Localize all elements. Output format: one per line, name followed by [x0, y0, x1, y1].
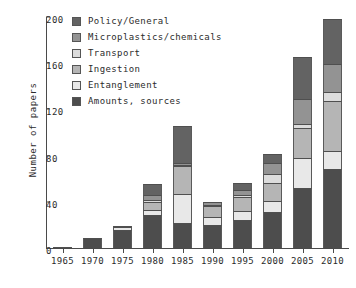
- bar-segment[interactable]: [173, 166, 192, 194]
- legend-item[interactable]: Ingestion: [72, 61, 222, 77]
- bar-segment[interactable]: [83, 238, 102, 248]
- bar-segment[interactable]: [233, 183, 252, 190]
- bar-segment[interactable]: [233, 211, 252, 220]
- bar-segment[interactable]: [203, 206, 222, 216]
- x-axis-tick-mark: [243, 249, 244, 253]
- bar-segment[interactable]: [263, 201, 282, 213]
- legend-item-label: Microplastics/chemicals: [88, 32, 222, 42]
- x-axis-tick-mark: [183, 249, 184, 253]
- bar-segment[interactable]: [203, 205, 222, 206]
- bar-segment[interactable]: [293, 99, 312, 124]
- bar-2010[interactable]: [323, 17, 342, 248]
- legend-item-label: Entanglement: [88, 80, 158, 90]
- bar-segment[interactable]: [143, 184, 162, 194]
- x-axis-tick-mark: [63, 249, 64, 253]
- bar-segment[interactable]: [233, 195, 252, 197]
- bar-segment[interactable]: [293, 158, 312, 188]
- x-axis-tick-mark: [303, 249, 304, 253]
- legend-swatch-icon: [72, 49, 81, 58]
- legend-item[interactable]: Policy/General: [72, 13, 222, 29]
- legend-item-label: Ingestion: [88, 64, 140, 74]
- legend-item-label: Transport: [88, 48, 140, 58]
- x-axis-tick-label: 1995: [231, 256, 254, 266]
- y-axis-title: Number of papers: [28, 50, 38, 210]
- x-axis-tick-mark: [213, 249, 214, 253]
- bar-1995[interactable]: [233, 17, 252, 248]
- x-axis-tick-label: 2005: [291, 256, 314, 266]
- bar-segment[interactable]: [323, 19, 342, 64]
- bar-segment[interactable]: [173, 126, 192, 163]
- bar-segment[interactable]: [173, 165, 192, 166]
- bar-segment[interactable]: [293, 128, 312, 158]
- bar-segment[interactable]: [113, 226, 132, 227]
- bar-segment[interactable]: [173, 163, 192, 165]
- bar-segment[interactable]: [293, 124, 312, 127]
- legend-item[interactable]: Amounts, sources: [72, 93, 222, 109]
- x-axis-tick-label: 1975: [111, 256, 134, 266]
- bar-segment[interactable]: [293, 57, 312, 99]
- bar-segment[interactable]: [263, 174, 282, 183]
- bar-segment[interactable]: [143, 195, 162, 200]
- legend-item[interactable]: Entanglement: [72, 77, 222, 93]
- bar-1965[interactable]: [53, 17, 72, 248]
- x-axis-tick-label: 2010: [321, 256, 344, 266]
- legend-item[interactable]: Microplastics/chemicals: [72, 29, 222, 45]
- x-axis-tick-label: 1985: [171, 256, 194, 266]
- x-axis-tick-mark: [153, 249, 154, 253]
- legend-swatch-icon: [72, 81, 81, 90]
- bar-segment[interactable]: [323, 101, 342, 151]
- bar-segment[interactable]: [263, 163, 282, 175]
- x-axis-tick-mark: [333, 249, 334, 253]
- bar-segment[interactable]: [203, 202, 222, 205]
- bar-segment[interactable]: [263, 183, 282, 200]
- bar-segment[interactable]: [233, 220, 252, 248]
- x-axis-tick-mark: [93, 249, 94, 253]
- legend-item-label: Policy/General: [88, 16, 169, 26]
- bar-segment[interactable]: [263, 212, 282, 248]
- x-axis-tick-label: 2000: [261, 256, 284, 266]
- bar-segment[interactable]: [143, 210, 162, 215]
- bar-segment[interactable]: [323, 64, 342, 92]
- stacked-bar-chart: Number of papers 04080120160200 19651970…: [0, 0, 356, 288]
- x-axis-tick-mark: [273, 249, 274, 253]
- legend-swatch-icon: [72, 33, 81, 42]
- x-axis-tick-label: 1980: [141, 256, 164, 266]
- bar-segment[interactable]: [113, 230, 132, 248]
- bar-segment[interactable]: [113, 227, 132, 229]
- bar-segment[interactable]: [203, 225, 222, 248]
- x-axis-tick-label: 1990: [201, 256, 224, 266]
- bar-2000[interactable]: [263, 17, 282, 248]
- x-axis-line: [46, 248, 349, 249]
- legend-item[interactable]: Transport: [72, 45, 222, 61]
- x-axis-tick-label: 1970: [81, 256, 104, 266]
- bar-segment[interactable]: [143, 202, 162, 210]
- bar-segment[interactable]: [173, 223, 192, 248]
- bar-segment[interactable]: [143, 215, 162, 248]
- legend-item-label: Amounts, sources: [88, 96, 181, 106]
- bar-segment[interactable]: [143, 200, 162, 202]
- bar-segment[interactable]: [293, 188, 312, 248]
- bar-segment[interactable]: [233, 190, 252, 195]
- bar-segment[interactable]: [323, 151, 342, 169]
- bar-segment[interactable]: [203, 217, 222, 225]
- bar-2005[interactable]: [293, 17, 312, 248]
- legend-swatch-icon: [72, 65, 81, 74]
- x-axis-tick-label: 1965: [51, 256, 74, 266]
- x-axis-tick-mark: [123, 249, 124, 253]
- bar-segment[interactable]: [233, 197, 252, 211]
- bar-segment[interactable]: [53, 247, 72, 248]
- bar-segment[interactable]: [323, 169, 342, 248]
- legend-swatch-icon: [72, 97, 81, 106]
- bar-segment[interactable]: [263, 154, 282, 162]
- legend-swatch-icon: [72, 17, 81, 26]
- chart-legend: Policy/GeneralMicroplastics/chemicalsTra…: [72, 13, 222, 109]
- bar-segment[interactable]: [173, 194, 192, 223]
- bar-segment[interactable]: [323, 92, 342, 101]
